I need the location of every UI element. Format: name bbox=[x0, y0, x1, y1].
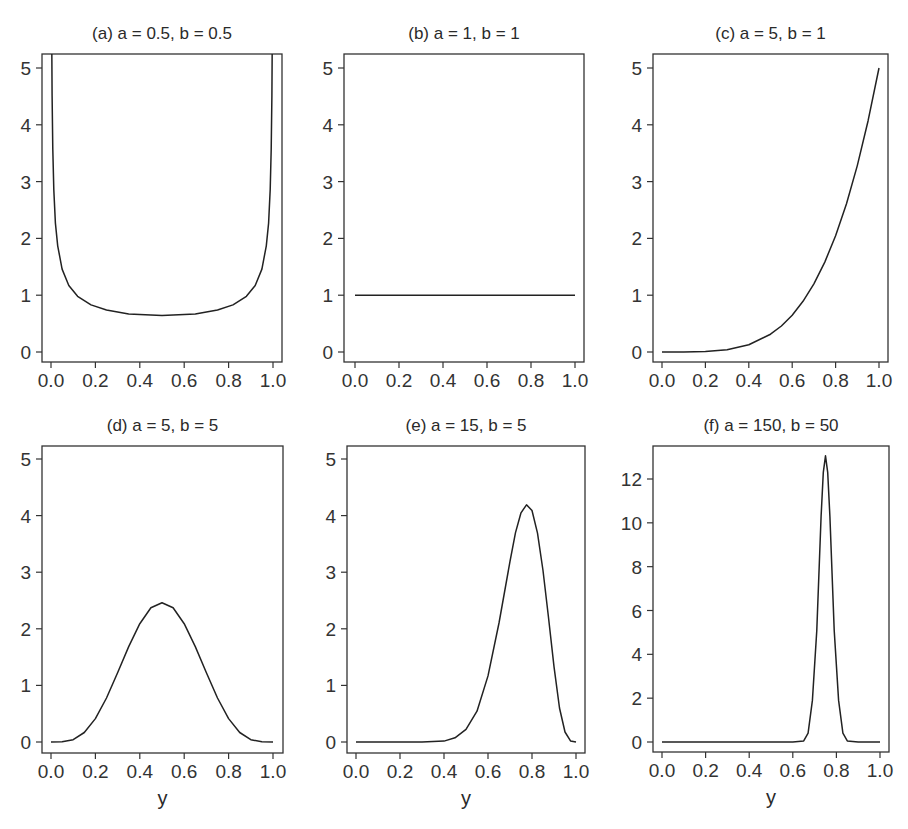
y-tick-label: 0 bbox=[325, 732, 336, 753]
y-tick-label: 2 bbox=[20, 228, 31, 249]
y-tick-label: 3 bbox=[325, 562, 336, 583]
plot-frame bbox=[42, 446, 283, 753]
panel-c: (c) a = 5, b = 10123450.00.20.40.60.81.0 bbox=[631, 24, 892, 391]
x-tick-label: 0.0 bbox=[649, 370, 675, 391]
y-tick-label: 4 bbox=[325, 506, 336, 527]
x-tick-label: 0.0 bbox=[38, 370, 64, 391]
x-tick-label: 0.6 bbox=[780, 760, 806, 781]
y-tick-label: 3 bbox=[322, 172, 333, 193]
y-tick-label: 5 bbox=[20, 449, 31, 470]
x-tick-label: 0.8 bbox=[518, 370, 544, 391]
y-tick-label: 4 bbox=[322, 115, 333, 136]
panel-title: (a) a = 0.5, b = 0.5 bbox=[92, 24, 232, 43]
density-curve bbox=[52, 32, 273, 316]
y-tick-label: 4 bbox=[631, 115, 642, 136]
panel-title: (b) a = 1, b = 1 bbox=[408, 24, 520, 43]
y-tick-label: 3 bbox=[20, 562, 31, 583]
panel-d: (d) a = 5, b = 50123450.00.20.40.60.81.0… bbox=[20, 416, 286, 809]
x-tick-label: 0.6 bbox=[475, 761, 501, 782]
density-curve bbox=[662, 68, 879, 352]
x-tick-label: 0.2 bbox=[82, 761, 108, 782]
x-tick-label: 1.0 bbox=[563, 761, 589, 782]
x-tick-label: 0.4 bbox=[430, 370, 457, 391]
x-tick-label: 0.0 bbox=[343, 761, 369, 782]
panel-f: (f) a = 150, b = 500246810120.00.20.40.6… bbox=[621, 416, 893, 808]
x-tick-label: 0.2 bbox=[82, 370, 108, 391]
panel-title: (c) a = 5, b = 1 bbox=[715, 24, 826, 43]
x-tick-label: 1.0 bbox=[867, 760, 893, 781]
y-tick-label: 4 bbox=[20, 506, 31, 527]
plot-frame bbox=[347, 446, 585, 753]
panel-a: (a) a = 0.5, b = 0.50123450.00.20.40.60.… bbox=[20, 24, 286, 391]
y-tick-label: 2 bbox=[20, 619, 31, 640]
x-tick-label: 0.0 bbox=[38, 761, 64, 782]
plot-frame bbox=[653, 446, 889, 752]
x-tick-label: 0.2 bbox=[387, 761, 413, 782]
panel-e: (e) a = 15, b = 50123450.00.20.40.60.81.… bbox=[325, 416, 589, 809]
x-tick-label: 1.0 bbox=[562, 370, 588, 391]
y-tick-label: 5 bbox=[322, 58, 333, 79]
x-tick-label: 0.8 bbox=[519, 761, 545, 782]
y-tick-label: 1 bbox=[631, 285, 642, 306]
x-tick-label: 0.4 bbox=[127, 370, 154, 391]
y-tick-label: 2 bbox=[631, 688, 642, 709]
plot-frame bbox=[344, 54, 584, 362]
figure: (a) a = 0.5, b = 0.50123450.00.20.40.60.… bbox=[0, 0, 908, 829]
y-tick-label: 0 bbox=[20, 342, 31, 363]
x-axis-label: y bbox=[158, 787, 168, 809]
y-tick-label: 12 bbox=[621, 469, 642, 490]
x-tick-label: 0.2 bbox=[692, 370, 718, 391]
y-tick-label: 8 bbox=[631, 557, 642, 578]
y-tick-label: 0 bbox=[322, 342, 333, 363]
x-tick-label: 0.8 bbox=[215, 370, 241, 391]
x-tick-label: 0.6 bbox=[779, 370, 805, 391]
x-tick-label: 0.4 bbox=[431, 761, 458, 782]
y-tick-label: 5 bbox=[325, 449, 336, 470]
x-tick-label: 0.6 bbox=[171, 761, 197, 782]
y-tick-label: 1 bbox=[322, 285, 333, 306]
panel-title: (e) a = 15, b = 5 bbox=[406, 416, 527, 435]
x-axis-label: y bbox=[461, 787, 471, 809]
x-tick-label: 0.8 bbox=[823, 760, 849, 781]
x-tick-label: 0.0 bbox=[342, 370, 368, 391]
panel-title: (d) a = 5, b = 5 bbox=[107, 416, 219, 435]
x-axis-label: y bbox=[766, 786, 776, 808]
y-tick-label: 1 bbox=[20, 675, 31, 696]
y-tick-label: 0 bbox=[631, 342, 642, 363]
x-tick-label: 0.4 bbox=[736, 760, 763, 781]
panel-b: (b) a = 1, b = 10123450.00.20.40.60.81.0 bbox=[322, 24, 588, 391]
y-tick-label: 4 bbox=[631, 644, 642, 665]
x-tick-label: 1.0 bbox=[866, 370, 892, 391]
y-tick-label: 1 bbox=[20, 285, 31, 306]
y-tick-label: 0 bbox=[631, 732, 642, 753]
density-curve bbox=[51, 603, 273, 742]
y-tick-label: 0 bbox=[20, 732, 31, 753]
y-tick-label: 5 bbox=[20, 58, 31, 79]
y-tick-label: 6 bbox=[631, 601, 642, 622]
y-tick-label: 2 bbox=[325, 619, 336, 640]
y-tick-label: 1 bbox=[325, 675, 336, 696]
panel-title: (f) a = 150, b = 50 bbox=[703, 416, 838, 435]
y-tick-label: 3 bbox=[631, 172, 642, 193]
y-tick-label: 3 bbox=[20, 172, 31, 193]
y-tick-label: 2 bbox=[322, 228, 333, 249]
density-curve bbox=[356, 505, 576, 742]
y-tick-label: 2 bbox=[631, 228, 642, 249]
x-tick-label: 0.6 bbox=[474, 370, 500, 391]
x-tick-label: 0.8 bbox=[215, 761, 241, 782]
x-tick-label: 0.4 bbox=[736, 370, 763, 391]
y-tick-label: 10 bbox=[621, 513, 642, 534]
x-tick-label: 0.6 bbox=[171, 370, 197, 391]
plot-frame bbox=[653, 54, 888, 362]
x-tick-label: 0.8 bbox=[822, 370, 848, 391]
x-tick-label: 0.0 bbox=[649, 760, 675, 781]
x-tick-label: 1.0 bbox=[260, 761, 286, 782]
x-tick-label: 0.2 bbox=[386, 370, 412, 391]
y-tick-label: 5 bbox=[631, 58, 642, 79]
y-tick-label: 4 bbox=[20, 115, 31, 136]
density-curve bbox=[662, 456, 880, 742]
x-tick-label: 0.4 bbox=[127, 761, 154, 782]
x-tick-label: 0.2 bbox=[692, 760, 718, 781]
x-tick-label: 1.0 bbox=[260, 370, 286, 391]
